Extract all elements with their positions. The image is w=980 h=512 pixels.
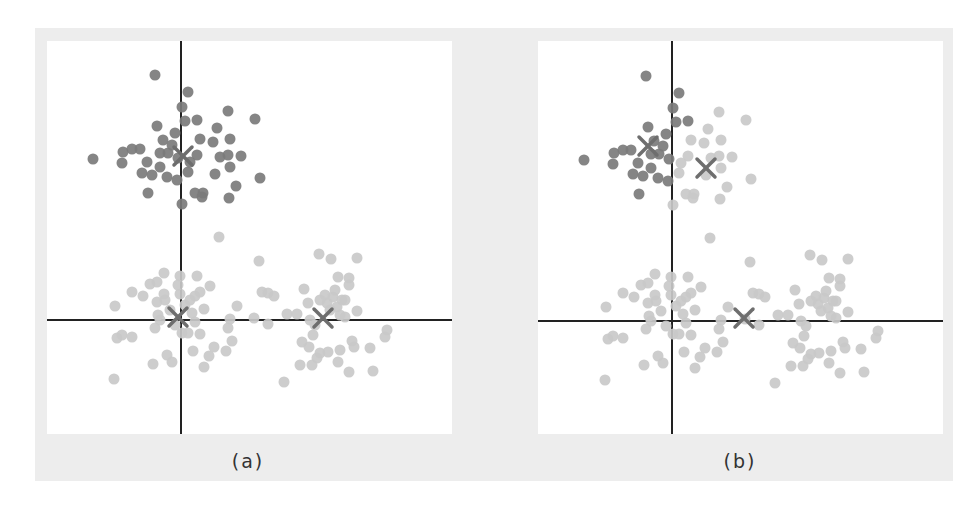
data-point — [197, 192, 208, 203]
data-point — [658, 358, 669, 369]
data-point — [859, 367, 870, 378]
data-point — [263, 319, 274, 330]
data-point — [686, 135, 697, 146]
data-point — [159, 268, 170, 279]
data-point — [712, 347, 723, 358]
data-point — [716, 135, 727, 146]
data-point — [232, 301, 243, 312]
panel-a-caption: (a) — [188, 450, 308, 472]
data-point — [109, 374, 120, 385]
data-point — [695, 352, 706, 363]
data-point — [254, 256, 265, 267]
data-point — [210, 169, 221, 180]
data-point — [127, 332, 138, 343]
data-point — [676, 158, 687, 169]
data-point — [727, 152, 738, 163]
data-point — [170, 128, 181, 139]
data-point — [843, 307, 854, 318]
data-point — [760, 292, 771, 303]
data-point — [195, 134, 206, 145]
data-point — [314, 249, 325, 260]
panel-b-points — [579, 71, 884, 389]
data-point — [183, 167, 194, 178]
data-point — [643, 122, 654, 133]
data-point — [344, 367, 355, 378]
data-point — [212, 123, 223, 134]
data-point — [344, 280, 355, 291]
data-point — [579, 155, 590, 166]
data-point — [335, 345, 346, 356]
data-point — [661, 129, 672, 140]
data-point — [676, 296, 687, 307]
data-point — [352, 306, 363, 317]
data-point — [143, 188, 154, 199]
data-point — [641, 71, 652, 82]
data-point — [282, 309, 293, 320]
data-point — [745, 257, 756, 268]
data-point — [214, 232, 225, 243]
data-point — [674, 329, 685, 340]
data-point — [299, 284, 310, 295]
data-point — [688, 193, 699, 204]
data-point — [330, 285, 341, 296]
data-point — [674, 168, 685, 179]
data-point — [663, 176, 674, 187]
data-point — [746, 174, 757, 185]
data-point — [664, 281, 675, 292]
data-point — [646, 163, 657, 174]
data-point — [190, 317, 201, 328]
data-point — [250, 114, 261, 125]
data-point — [668, 103, 679, 114]
data-point — [183, 328, 194, 339]
data-point — [681, 318, 692, 329]
data-point — [690, 363, 701, 374]
data-point — [255, 173, 266, 184]
data-point — [117, 158, 128, 169]
data-point — [686, 330, 697, 341]
data-point — [786, 361, 797, 372]
data-point — [690, 305, 701, 316]
data-point — [835, 281, 846, 292]
data-point — [152, 277, 163, 288]
data-point — [638, 171, 649, 182]
data-point — [160, 295, 171, 306]
data-point — [223, 150, 234, 161]
data-point — [365, 343, 376, 354]
data-point — [249, 313, 260, 324]
data-point — [664, 154, 675, 165]
data-point — [183, 87, 194, 98]
data-point — [639, 360, 650, 371]
data-point — [626, 145, 637, 156]
data-point — [790, 285, 801, 296]
data-point — [227, 336, 238, 347]
data-point — [155, 162, 166, 173]
data-point — [601, 302, 612, 313]
data-point — [180, 116, 191, 127]
data-point — [650, 269, 661, 280]
data-point — [236, 151, 247, 162]
data-point — [307, 360, 318, 371]
data-point — [195, 329, 206, 340]
data-point — [826, 311, 837, 322]
data-point — [223, 106, 234, 117]
data-point — [714, 324, 725, 335]
data-point — [835, 368, 846, 379]
data-point — [634, 189, 645, 200]
data-point — [821, 286, 832, 297]
data-point — [805, 250, 816, 261]
data-point — [618, 333, 629, 344]
data-point — [152, 121, 163, 132]
data-point — [148, 359, 159, 370]
data-point — [142, 157, 153, 168]
panel-a-points — [88, 70, 393, 388]
data-point — [770, 378, 781, 389]
data-point — [205, 281, 216, 292]
panel-a-axes — [47, 41, 452, 434]
data-point — [618, 288, 629, 299]
data-point — [783, 310, 794, 321]
data-point — [699, 138, 710, 149]
data-point — [628, 169, 639, 180]
data-point — [333, 357, 344, 368]
data-point — [801, 321, 812, 332]
data-point — [155, 315, 166, 326]
